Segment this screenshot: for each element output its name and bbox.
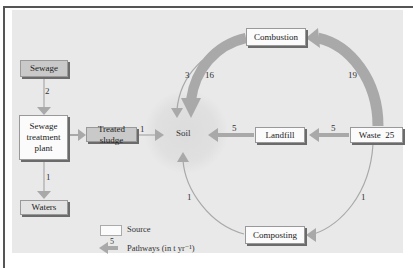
legend-source-swatch [100, 225, 122, 236]
arrow-waste-combustion [318, 38, 378, 126]
label-combustion-soil-thick: 16 [205, 70, 214, 80]
label-waste-to-combustion: 19 [348, 70, 357, 80]
label-waste-to-landfill: 5 [331, 123, 336, 133]
label-composting-to-soil: 1 [187, 192, 192, 202]
node-waste: Waste 25 [350, 127, 403, 143]
arrowhead-waste-landfill [309, 128, 319, 142]
node-landfill: Landfill [255, 127, 305, 143]
arrow-combustion-soil-thick [191, 38, 246, 100]
arrowhead-plant-waters [37, 191, 51, 199]
node-treated-sludge: Treated sludge [86, 127, 137, 142]
label-sludge-to-soil: 1 [140, 124, 145, 134]
node-waters: Waters [20, 200, 68, 215]
node-combustion: Combustion [246, 28, 306, 46]
legend-pathway-label: Pathways (in t yr⁻¹) [127, 243, 195, 253]
node-soil: Soil [176, 128, 191, 138]
arrowhead-plant-sludge [78, 129, 86, 141]
arrowhead-waste-composting [306, 228, 316, 242]
node-sewage-treatment-plant: Sewage treatment plant [19, 115, 68, 160]
label-combustion-soil-thin: 3 [185, 70, 190, 80]
label-waste-to-composting: 1 [361, 192, 366, 202]
node-sewage: Sewage [20, 60, 68, 77]
legend-pathway-value: 5 [110, 237, 114, 246]
legend-source-label: Source [127, 224, 151, 234]
label-sewage-to-plant: 2 [45, 86, 50, 96]
legend-arrowhead [99, 242, 108, 254]
node-composting: Composting [245, 226, 305, 244]
arrowhead-waste-combustion [306, 28, 320, 48]
label-landfill-to-soil: 5 [232, 123, 237, 133]
label-plant-to-waters: 1 [46, 172, 51, 182]
arrow-waste-composting [314, 144, 373, 234]
arrowhead-sewage-plant [37, 107, 51, 115]
